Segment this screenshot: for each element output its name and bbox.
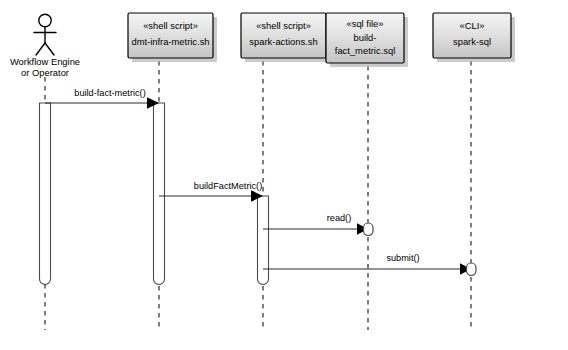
sequence-diagram-canvas: Workflow Engine or Operator «shell scrip… — [0, 0, 568, 350]
participant-box-spark-sql[interactable]: «CLI» spark-sql — [433, 13, 515, 62]
box-name-spark-actions: spark-actions.sh — [249, 36, 317, 47]
actor-head-icon — [39, 14, 51, 26]
message-label-build-fact-metric-camel: buildFactMetric() — [194, 181, 262, 191]
actor-figure: Workflow Engine or Operator — [10, 14, 80, 78]
message-read[interactable]: read() — [263, 213, 373, 236]
participant-box-spark-actions[interactable]: «shell script» spark-actions.sh — [241, 13, 330, 62]
message-label-read: read() — [327, 213, 352, 223]
box-stereotype-spark-sql: «CLI» — [459, 20, 484, 31]
message-label-build-fact-metric: build-fact-metric() — [74, 88, 145, 98]
activation-bar-spark-actions — [258, 196, 269, 285]
activation-bars-group — [40, 103, 269, 285]
box-stereotype-spark-actions: «shell script» — [256, 20, 311, 31]
message-endpoint-submit — [467, 263, 477, 276]
actor-label-line2: or Operator — [21, 67, 69, 78]
actor-leg-left-icon — [36, 43, 45, 55]
message-label-submit: submit() — [386, 253, 419, 263]
box-stereotype-dmt-infra-metric: «shell script» — [143, 20, 198, 31]
actor-label-line1: Workflow Engine — [10, 56, 80, 67]
box-name-build-fact-metric-sql-line1: build- — [354, 32, 377, 43]
box-name-dmt-infra-metric: dmt-infra-metric.sh — [131, 36, 209, 47]
participant-box-dmt-infra-metric[interactable]: «shell script» dmt-infra-metric.sh — [128, 13, 217, 62]
message-build-fact-metric[interactable]: build-fact-metric() — [45, 88, 159, 109]
activation-bar-actor — [40, 103, 51, 284]
box-stereotype-build-fact-metric-sql: «sql file» — [346, 18, 383, 29]
sequence-diagram-svg: Workflow Engine or Operator «shell scrip… — [0, 0, 568, 350]
box-name-build-fact-metric-sql-line2: fact_metric.sql — [335, 45, 395, 56]
message-build-fact-metric-camel[interactable]: buildFactMetric() — [159, 181, 263, 202]
participant-box-build-fact-metric-sql[interactable]: «sql file» build- fact_metric.sql — [326, 13, 408, 67]
box-name-spark-sql: spark-sql — [453, 36, 491, 47]
message-submit[interactable]: submit() — [263, 253, 476, 276]
actor-leg-right-icon — [45, 43, 54, 55]
activation-bar-dmt-infra-metric — [154, 103, 165, 285]
message-endpoint-read — [364, 223, 374, 236]
